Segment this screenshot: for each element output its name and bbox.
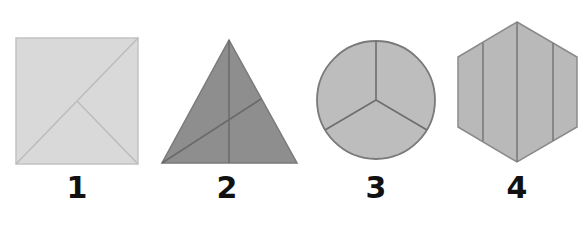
shape-hexagon [458, 22, 577, 162]
shape-label-3: 3 [356, 168, 396, 208]
shape-label-4: 4 [497, 168, 537, 208]
shape-circle [317, 41, 435, 159]
shape-label-2: 2 [207, 168, 247, 208]
shape-label-1: 1 [57, 168, 97, 208]
shape-square [16, 38, 138, 164]
shape-triangle [162, 40, 297, 163]
